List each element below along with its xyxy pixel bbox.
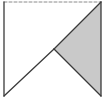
geometric-figure [0,0,103,104]
diagram-canvas [0,0,103,104]
diagonal-lower-segment [4,49,54,96]
shaded-triangle [54,2,101,96]
